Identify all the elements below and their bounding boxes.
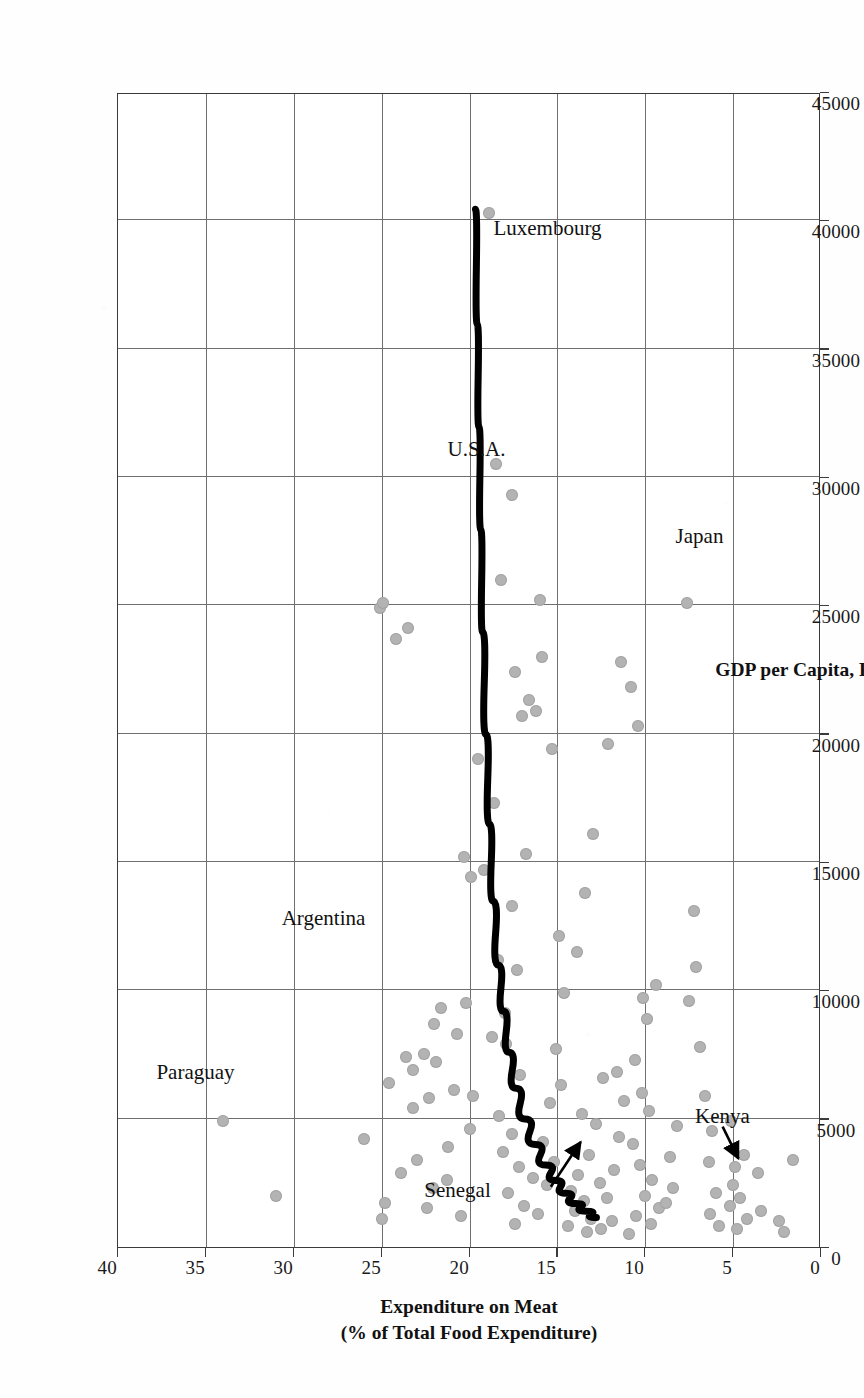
scatter-point — [428, 1018, 440, 1030]
x-axis-tick-label: 45000 — [812, 93, 861, 115]
scatter-point — [509, 1218, 521, 1230]
vertical-gridline — [118, 733, 819, 734]
scatter-point — [634, 1159, 646, 1171]
scatter-point — [710, 1187, 722, 1199]
scatter-point — [499, 1007, 511, 1019]
vertical-gridline — [118, 219, 819, 220]
x-axis-tick-label: 5000 — [817, 1120, 856, 1142]
scatter-point — [645, 1218, 657, 1230]
scatter-point — [625, 681, 637, 693]
scatter-point — [734, 1192, 746, 1204]
scatter-point — [377, 597, 389, 609]
scatter-point — [430, 1056, 442, 1068]
scatter-point — [467, 1090, 479, 1102]
scatter-point — [778, 1226, 790, 1238]
vertical-gridline — [118, 861, 819, 862]
scatter-point — [407, 1102, 419, 1114]
y-axis-tick — [381, 1248, 382, 1257]
scatter-point — [478, 864, 490, 876]
scatter-point — [594, 1177, 606, 1189]
scatter-point — [639, 1190, 651, 1202]
scatter-point — [458, 851, 470, 863]
horizontal-gridline — [382, 94, 383, 1247]
horizontal-gridline — [557, 94, 558, 1247]
scatter-point — [492, 954, 504, 966]
scatter-point — [576, 1108, 588, 1120]
scatter-point — [376, 1213, 388, 1225]
y-axis-tick-label: 25 — [361, 1257, 380, 1279]
scatter-point — [506, 1128, 518, 1140]
scatter-point — [544, 1097, 556, 1109]
y-axis-tick — [469, 1248, 470, 1257]
scatter-point — [601, 1192, 613, 1204]
x-axis-tick-label: 30000 — [812, 478, 861, 500]
x-axis-tick-label: 35000 — [812, 350, 861, 372]
scatter-point — [407, 1064, 419, 1076]
y-axis-title-line1: Expenditure on Meat — [340, 1294, 596, 1320]
scatter-point — [435, 1002, 447, 1014]
y-axis-tick-label: 30 — [273, 1257, 292, 1279]
scatter-point — [741, 1213, 753, 1225]
annotation-label-usa: U.S.A. — [448, 437, 506, 462]
scatter-point — [562, 1220, 574, 1232]
scatter-point — [738, 1149, 750, 1161]
scatter-point — [694, 1041, 706, 1053]
scatter-point — [579, 887, 591, 899]
scatter-point — [578, 1195, 590, 1207]
vertical-gridline — [118, 348, 819, 349]
scatter-point — [690, 961, 702, 973]
annotation-label-japan: Japan — [676, 524, 724, 549]
scatter-point — [727, 1179, 739, 1191]
scatter-point — [497, 1146, 509, 1158]
scatter-point — [729, 1161, 741, 1173]
scatter-point — [623, 1228, 635, 1240]
x-axis-tick-label: 25000 — [812, 606, 861, 628]
scatter-point — [546, 743, 558, 755]
y-axis-tick-label: 40 — [98, 1257, 117, 1279]
scatter-point — [550, 1043, 562, 1055]
scatter-point — [421, 1203, 433, 1215]
scatter-point — [583, 1149, 595, 1161]
horizontal-gridline — [470, 94, 471, 1247]
scatter-point — [595, 1223, 607, 1235]
scatter-point — [495, 574, 507, 586]
horizontal-gridline — [294, 94, 295, 1247]
scatter-point — [506, 900, 518, 912]
scatter-point — [660, 1197, 672, 1209]
scatter-point — [581, 1226, 593, 1238]
x-axis-tick-label: 10000 — [812, 991, 861, 1013]
y-axis-tick — [732, 1248, 733, 1257]
scatter-point — [641, 1013, 653, 1025]
scatter-point — [585, 1213, 597, 1225]
vertical-gridline — [118, 604, 819, 605]
scatter-point — [629, 1054, 641, 1066]
scatter-point — [646, 1174, 658, 1186]
y-axis-tick — [556, 1248, 557, 1257]
y-axis-tick — [117, 1248, 118, 1257]
scatter-point — [486, 1031, 498, 1043]
scatter-point — [683, 995, 695, 1007]
scatter-point — [455, 1210, 467, 1222]
annotation-label-senegal: Senegal — [424, 1178, 490, 1203]
scatter-point — [681, 597, 693, 609]
scatter-point — [571, 946, 583, 958]
scatter-point — [553, 930, 565, 942]
y-axis-tick — [205, 1248, 206, 1257]
scatter-point — [572, 1169, 584, 1181]
annotation-arrow-kenya — [723, 1127, 739, 1159]
scatter-point — [597, 1072, 609, 1084]
scatter-point — [724, 1200, 736, 1212]
scatter-point — [527, 1172, 539, 1184]
scatter-point — [755, 1205, 767, 1217]
scatter-point — [423, 1092, 435, 1104]
scatter-point — [636, 1087, 648, 1099]
scatter-point — [411, 1154, 423, 1166]
scatter-point — [536, 651, 548, 663]
annotation-label-kenya: Kenya — [695, 1104, 750, 1129]
scatter-point — [451, 1028, 463, 1040]
y-axis-tick-label: 10 — [625, 1257, 644, 1279]
vertical-gridline — [118, 989, 819, 990]
scatter-point — [699, 1090, 711, 1102]
x-axis-title-text: GDP per Capita, PPP (2000 International … — [715, 660, 864, 681]
scatter-point — [615, 656, 627, 668]
